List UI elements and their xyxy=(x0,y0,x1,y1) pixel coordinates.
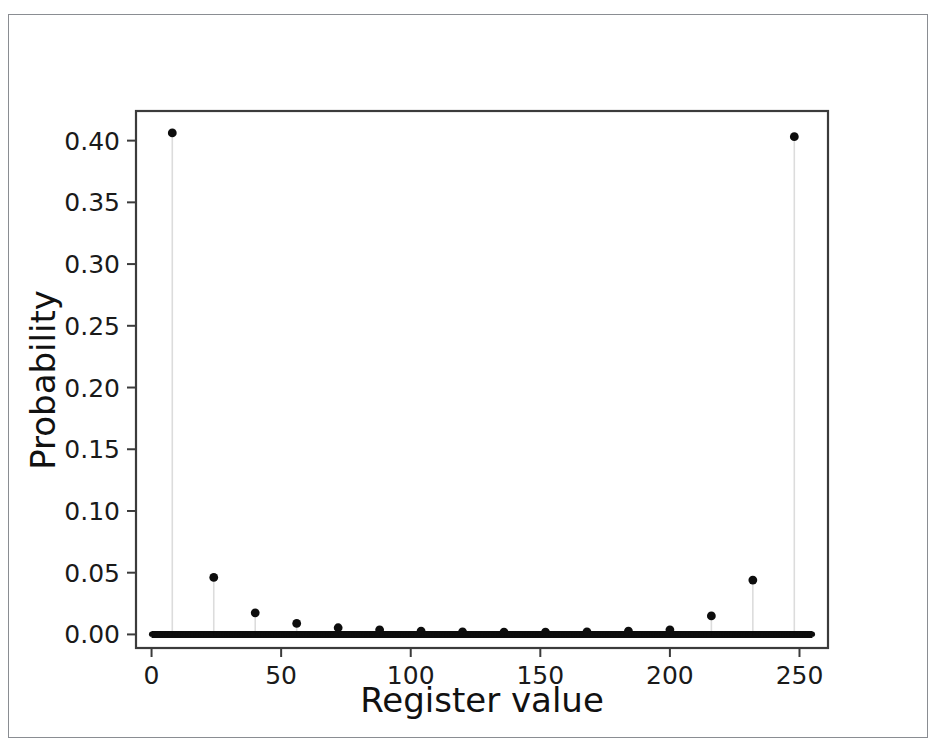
data-marker xyxy=(167,632,172,637)
data-marker xyxy=(810,632,815,637)
data-marker xyxy=(706,632,711,637)
x-tick-label: 250 xyxy=(776,661,824,690)
y-tick-label: 0.00 xyxy=(64,620,120,649)
x-tick-label: 200 xyxy=(646,661,694,690)
y-axis-ticks: 0.000.050.100.150.200.250.300.350.40 xyxy=(64,127,136,650)
peak-marker xyxy=(707,612,716,621)
data-marker xyxy=(291,632,296,637)
y-tick-label: 0.20 xyxy=(64,374,120,403)
data-marker xyxy=(789,632,794,637)
peak-marker xyxy=(251,608,260,617)
y-tick-label: 0.35 xyxy=(64,188,120,217)
y-tick-label: 0.10 xyxy=(64,497,120,526)
peak-marker xyxy=(748,576,757,585)
peak-marker xyxy=(790,132,799,141)
stem-series xyxy=(172,133,794,634)
data-marker xyxy=(209,632,214,637)
x-tick-label: 50 xyxy=(265,661,297,690)
axes-frame xyxy=(136,111,828,648)
x-axis-label: Register value xyxy=(360,680,604,720)
figure-canvas: 050100150200250 0.000.050.100.150.200.25… xyxy=(0,0,935,750)
y-tick-label: 0.25 xyxy=(64,312,120,341)
data-marker xyxy=(748,632,753,637)
axes-spines xyxy=(136,111,828,648)
peak-marker xyxy=(292,619,301,628)
stem-markers xyxy=(149,129,815,637)
y-tick-label: 0.05 xyxy=(64,559,120,588)
y-tick-label: 0.40 xyxy=(64,127,120,156)
plot-area: 050100150200250 0.000.050.100.150.200.25… xyxy=(0,0,935,750)
stem-plot-svg: 050100150200250 0.000.050.100.150.200.25… xyxy=(0,0,935,750)
peak-marker xyxy=(168,129,177,138)
y-axis-label: Probability xyxy=(23,290,63,470)
data-marker xyxy=(333,632,338,637)
data-marker xyxy=(250,632,255,637)
y-tick-label: 0.15 xyxy=(64,435,120,464)
peak-marker xyxy=(334,623,343,632)
y-tick-label: 0.30 xyxy=(64,250,120,279)
peak-marker xyxy=(209,573,218,582)
x-tick-label: 0 xyxy=(144,661,160,690)
